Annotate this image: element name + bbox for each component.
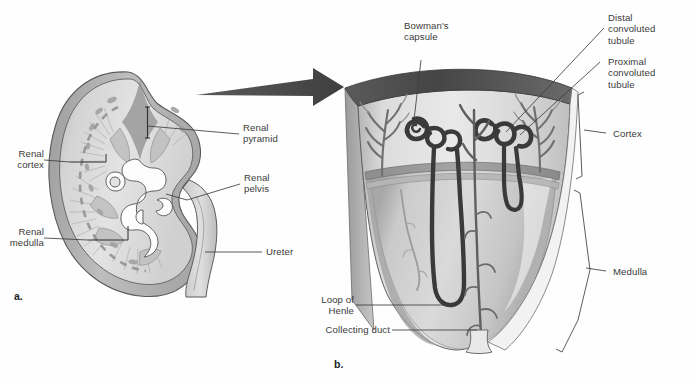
leader-medulla bbox=[586, 268, 606, 271]
kidney-nephron-figure: Renal cortex Renal medulla Renal pyramid… bbox=[0, 0, 695, 381]
label-renal-pyramid: Renal pyramid bbox=[243, 122, 299, 145]
label-renal-cortex: Renal cortex bbox=[6, 148, 44, 171]
panel-a-kidney-section bbox=[44, 72, 262, 297]
panel-b-nephron-detail bbox=[345, 28, 606, 354]
label-distal-convoluted-tubule: Distal convoluted tubule bbox=[608, 12, 688, 46]
panel-letter-a: a. bbox=[14, 290, 23, 302]
leader-cortex bbox=[584, 130, 606, 133]
label-proximal-convoluted-tubule: Proximal convoluted tubule bbox=[608, 56, 688, 90]
label-ureter: Ureter bbox=[266, 246, 316, 257]
label-bowmans-capsule: Bowman's capsule bbox=[404, 20, 472, 43]
label-loop-of-henle: Loop of Henle bbox=[300, 294, 354, 317]
label-renal-medulla: Renal medulla bbox=[6, 226, 44, 249]
label-medulla: Medulla bbox=[613, 266, 669, 277]
panel-letter-b: b. bbox=[334, 358, 343, 370]
label-cortex: Cortex bbox=[613, 128, 669, 139]
magnification-arrow bbox=[196, 68, 344, 106]
label-collecting-duct: Collecting duct bbox=[294, 324, 390, 335]
label-renal-pelvis: Renal pelvis bbox=[244, 172, 300, 195]
